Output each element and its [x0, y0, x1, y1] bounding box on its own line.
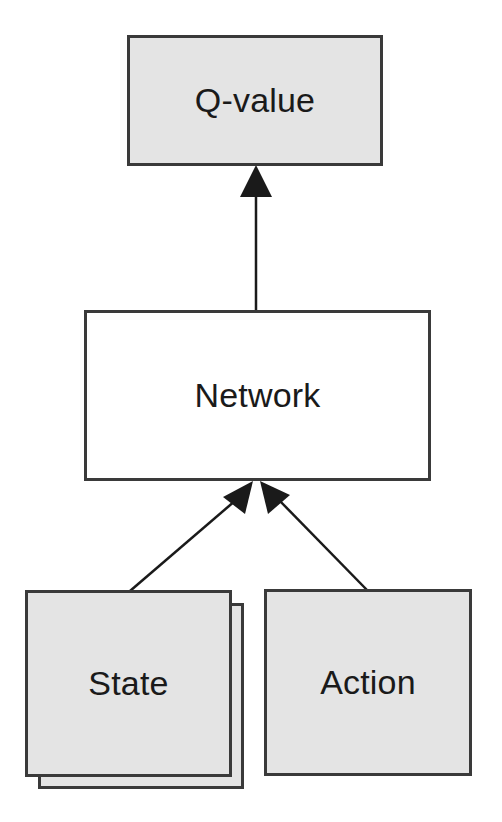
- node-action-label: Action: [320, 663, 416, 702]
- node-qvalue: Q-value: [127, 35, 383, 166]
- node-network: Network: [84, 310, 431, 481]
- arrowhead-icon: [223, 481, 253, 514]
- node-network-label: Network: [194, 376, 320, 415]
- node-qvalue-label: Q-value: [195, 81, 315, 120]
- diagram-canvas: Q-value Network State Action: [0, 0, 502, 822]
- arrowhead-icon: [260, 481, 290, 514]
- arrowhead-icon: [240, 165, 272, 197]
- edge-state-to-network: [130, 481, 253, 591]
- edge-line: [130, 500, 236, 591]
- node-action: Action: [264, 589, 472, 776]
- edge-action-to-network: [260, 481, 367, 590]
- edge-line: [278, 499, 367, 590]
- node-state-label: State: [88, 664, 168, 703]
- edge-network-to-qvalue: [240, 165, 272, 311]
- node-state: State: [25, 590, 232, 777]
